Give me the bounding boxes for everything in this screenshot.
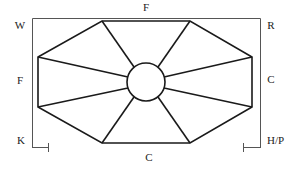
- label-top: F: [143, 1, 149, 13]
- label-bottom-left: K: [17, 134, 25, 146]
- label-bottom-right: H/P: [267, 134, 284, 146]
- label-bottom: C: [145, 151, 152, 163]
- label-top-left: W: [15, 19, 26, 31]
- octagon-diagram: F W R F C K H/P C: [0, 0, 305, 174]
- center-circle: [127, 63, 165, 101]
- label-top-right: R: [267, 19, 275, 31]
- label-right: C: [267, 73, 274, 85]
- label-left: F: [17, 74, 23, 86]
